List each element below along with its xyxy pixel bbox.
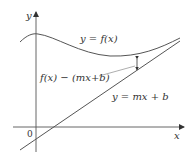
origin-label: 0 [27, 129, 33, 139]
diagram-canvas: y x 0 y = f(x) f(x) − (mx+b) y = mx + b [0, 0, 193, 159]
y-axis-label: y [25, 10, 32, 21]
x-axis-label: x [174, 130, 180, 141]
difference-label: f(x) − (mx+b) [39, 72, 110, 83]
curve-label: y = f(x) [79, 33, 118, 44]
asymptote-label: y = mx + b [111, 91, 169, 102]
